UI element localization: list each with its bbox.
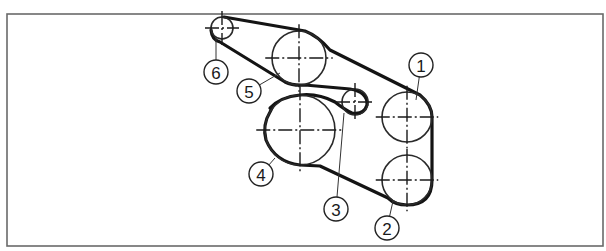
leader-line [416, 77, 419, 100]
callout-2: 2 [375, 201, 399, 240]
drive-belt-inner [211, 30, 367, 113]
callout-3: 3 [324, 113, 348, 221]
pulley-1 [376, 86, 439, 149]
pulley-5 [265, 24, 333, 92]
belt-routing-diagram: 123456 [0, 0, 606, 251]
callout-number: 4 [256, 166, 265, 185]
pulley-6 [205, 11, 239, 45]
leader-line [337, 113, 344, 197]
callout-number: 3 [331, 201, 340, 220]
leader-line [269, 158, 275, 165]
leader-line [390, 201, 393, 216]
callout-number: 5 [244, 83, 253, 102]
callout-number: 6 [211, 64, 220, 83]
leader-line [259, 73, 280, 85]
callout-5: 5 [237, 73, 280, 103]
pulley-2 [376, 149, 439, 212]
callout-number: 1 [416, 57, 425, 76]
callout-number: 2 [382, 220, 391, 239]
callout-4: 4 [249, 158, 275, 186]
